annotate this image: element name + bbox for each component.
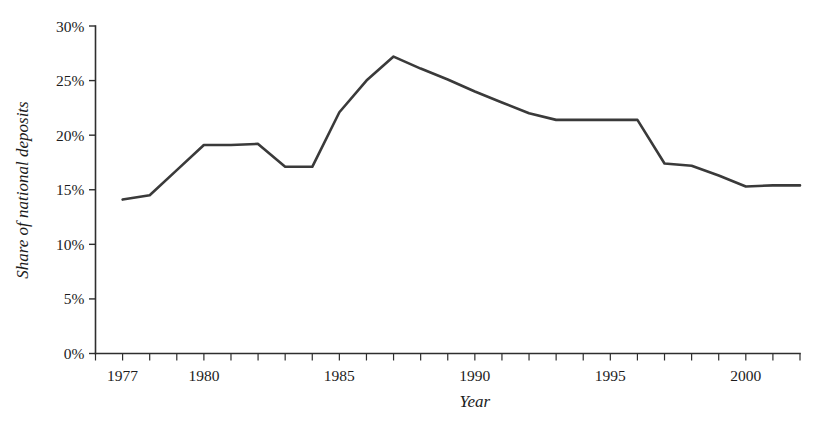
y-tick-label: 5% <box>64 290 85 307</box>
y-tick-label: 0% <box>64 345 85 362</box>
x-tick-label: 1990 <box>459 367 490 384</box>
y-axis-title: Share of national deposits <box>13 101 32 279</box>
y-axis-tick-labels: 0%5%10%15%20%25%30% <box>56 18 85 363</box>
line-chart: 0%5%10%15%20%25%30% 19771980198519901995… <box>0 0 816 428</box>
x-axis-title: Year <box>460 392 491 411</box>
x-tick-label: 1995 <box>595 367 626 384</box>
y-tick-label: 15% <box>56 181 85 198</box>
y-axis-ticks <box>89 26 96 354</box>
y-tick-label: 10% <box>56 236 85 253</box>
x-tick-label: 1985 <box>324 367 355 384</box>
x-tick-label: 2000 <box>730 367 761 384</box>
y-tick-label: 25% <box>56 72 85 89</box>
data-series-line <box>123 57 800 200</box>
y-tick-label: 20% <box>56 127 85 144</box>
x-axis-ticks <box>96 354 801 361</box>
y-tick-label: 30% <box>56 18 85 35</box>
x-tick-label: 1977 <box>107 367 138 384</box>
chart-page: 0%5%10%15%20%25%30% 19771980198519901995… <box>0 0 816 428</box>
x-axis-tick-labels: 197719801985199019952000 <box>107 367 761 384</box>
x-tick-label: 1980 <box>188 367 219 384</box>
